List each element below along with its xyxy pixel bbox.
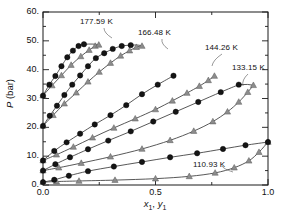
vapor-point-marker (96, 69, 102, 75)
liquid-point-marker (76, 43, 81, 48)
isotherm-label: 166.48 K (138, 28, 171, 37)
liquid-point-marker (77, 131, 82, 136)
vapor-point-marker (107, 60, 113, 66)
axis-ticks (43, 12, 268, 185)
liquid-point-marker (53, 162, 58, 167)
liquid-point-marker (53, 73, 58, 78)
y-tick-label: 40. (17, 64, 39, 74)
vapor-point-marker (152, 106, 158, 112)
liquid-point-marker (70, 48, 75, 53)
dew-curve (43, 85, 253, 170)
liquid-point-marker (110, 46, 115, 51)
liquid-point-marker (93, 55, 98, 60)
vapor-point-marker (224, 109, 230, 115)
bubble-curve (43, 76, 174, 161)
y-tick-label: 50. (17, 35, 39, 45)
liquid-point-marker (40, 93, 45, 98)
label-leader-line (162, 39, 168, 49)
x-axis-label: x1, y1 (110, 198, 200, 211)
liquid-point-marker (85, 147, 90, 152)
liquid-point-marker (128, 42, 133, 47)
vapor-point-marker (127, 47, 133, 53)
dew-curve (43, 46, 142, 126)
liquid-point-marker (236, 82, 241, 87)
liquid-point-marker (52, 148, 57, 153)
liquid-point-marker (243, 143, 248, 148)
label-leader-line (212, 54, 222, 66)
liquid-point-marker (70, 82, 75, 87)
vapor-point-marker (86, 47, 92, 53)
vapor-point-marker (184, 90, 190, 96)
liquid-point-marker (64, 140, 69, 145)
vapor-point-marker (169, 98, 175, 104)
liquid-point-marker (85, 64, 90, 69)
liquid-point-marker (77, 73, 82, 78)
liquid-point-marker (102, 51, 107, 56)
liquid-point-marker (139, 159, 144, 164)
vle-pxy-chart: P (bar) x1, y1 0.10.20.30.40.50.60. 0.00… (0, 0, 291, 223)
vapor-point-marker (78, 53, 84, 59)
liquid-point-marker (40, 179, 45, 184)
liquid-point-marker (155, 82, 160, 87)
y-tick-label: 20. (17, 121, 39, 131)
y-tick-label: 60. (17, 6, 39, 16)
liquid-point-marker (265, 139, 270, 144)
y-tick-label: 30. (17, 93, 39, 103)
y-tick-label: 10. (17, 150, 39, 160)
liquid-point-marker (220, 146, 225, 151)
liquid-point-marker (47, 82, 52, 87)
liquid-point-marker (151, 119, 156, 124)
y-axis-label-unit: (bar) (4, 79, 15, 102)
vapor-point-marker (89, 134, 95, 140)
liquid-point-marker (85, 168, 90, 173)
plot-frame (43, 12, 268, 185)
liquid-point-marker (59, 64, 64, 69)
liquid-point-marker (67, 155, 72, 160)
vapor-point-marker (70, 144, 76, 150)
vapor-point-marker (118, 53, 124, 59)
vapor-point-marker (196, 83, 202, 89)
liquid-point-marker (111, 164, 116, 169)
y-axis-label-symbol: P (4, 102, 15, 108)
liquid-point-marker (119, 43, 124, 48)
vapor-point-marker (191, 128, 197, 134)
liquid-point-marker (194, 151, 199, 156)
liquid-point-marker (171, 73, 176, 78)
x-tick-label: 0.0 (28, 187, 58, 197)
x-tick-label: 0.5 (141, 187, 171, 197)
vapor-point-marker (111, 125, 117, 131)
bubble-curve (43, 45, 131, 126)
isotherm-label: 110.93 K (193, 160, 225, 169)
vapor-point-marker (205, 77, 211, 83)
liquid-point-marker (47, 113, 52, 118)
vapor-point-marker (132, 115, 138, 121)
vapor-point-marker (211, 73, 217, 79)
liquid-point-marker (92, 122, 97, 127)
isotherm-label: 133.15 K (232, 63, 265, 72)
liquid-point-marker (52, 177, 57, 182)
liquid-point-marker (106, 138, 111, 143)
liquid-point-marker (139, 91, 144, 96)
liquid-point-marker (54, 103, 59, 108)
liquid-point-marker (40, 158, 45, 163)
x-axis-label-y-sub: 1 (162, 204, 166, 211)
liquid-point-marker (66, 173, 71, 178)
liquid-point-marker (108, 113, 113, 118)
liquid-point-marker (196, 99, 201, 104)
liquid-point-marker (167, 155, 172, 160)
x-tick-label: 1.0 (253, 187, 283, 197)
vapor-point-marker (210, 118, 216, 124)
liquid-point-marker (81, 42, 86, 47)
vapor-point-marker (246, 158, 252, 164)
isotherm-label: 144.26 K (205, 43, 238, 52)
liquid-point-marker (124, 102, 129, 107)
liquid-point-marker (62, 92, 67, 97)
liquid-point-marker (173, 109, 178, 114)
liquid-point-marker (128, 129, 133, 134)
liquid-point-marker (40, 123, 45, 128)
y-axis-label: P (bar) (4, 71, 15, 117)
isotherm-label: 177.59 K (80, 17, 113, 26)
liquid-point-marker (65, 55, 70, 60)
liquid-point-marker (218, 89, 223, 94)
label-leader-line (104, 28, 112, 38)
